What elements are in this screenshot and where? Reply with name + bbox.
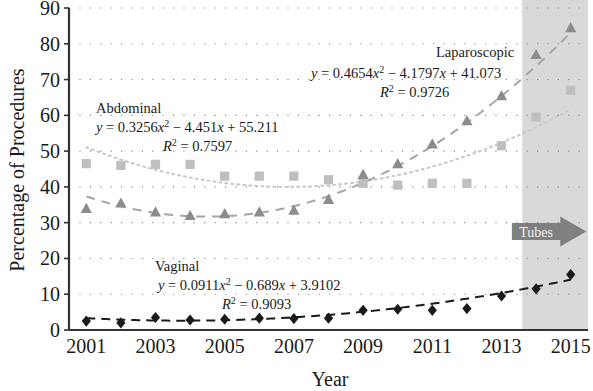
data-point-marker bbox=[532, 113, 541, 122]
laparoscopic-series-label: Laparoscopic bbox=[436, 44, 514, 60]
data-point-marker bbox=[462, 179, 471, 188]
data-point-marker bbox=[428, 305, 437, 316]
vaginal-eq-tail: + 3.9102 bbox=[285, 277, 340, 293]
chart-canvas: 9080706050403020100 20012003200520072009… bbox=[0, 0, 593, 391]
data-point-marker bbox=[427, 138, 438, 148]
data-point-marker bbox=[497, 141, 506, 150]
data-point-marker bbox=[359, 179, 368, 188]
data-point-marker bbox=[289, 313, 298, 324]
data-point-marker bbox=[82, 159, 91, 168]
vaginal-r-squared: R2 = 0.9093 bbox=[221, 295, 291, 312]
vaginal-eq-mid: − 0.689 bbox=[231, 277, 279, 293]
laparoscopic-r-squared: R2 = 0.9726 bbox=[379, 83, 449, 100]
vaginal-series-label: Vaginal bbox=[155, 258, 199, 274]
data-point-marker bbox=[115, 197, 126, 207]
data-point-marker bbox=[462, 303, 471, 314]
laparoscopic-r: R bbox=[379, 84, 389, 100]
laparoscopic-eq-assign: = 0.4654 bbox=[317, 65, 373, 81]
y-axis-title: Percentage of Procedures bbox=[6, 68, 29, 271]
y-tick-label: 50 bbox=[40, 140, 60, 162]
abdominal-r-squared: R2 = 0.7597 bbox=[162, 137, 232, 154]
data-point-marker bbox=[255, 313, 264, 324]
abdominal-r-val: = 0.7597 bbox=[177, 138, 232, 154]
vaginal-equation: y = 0.0911x2 − 0.689x + 3.9102 bbox=[156, 276, 340, 293]
x-tick-label: 2007 bbox=[274, 335, 314, 357]
data-point-marker bbox=[289, 172, 298, 181]
abdominal-eq-tail: + 55.211 bbox=[224, 119, 279, 135]
x-axis-tick-labels: 20012003200520072009201120132015 bbox=[66, 335, 590, 357]
data-point-marker bbox=[566, 86, 575, 95]
chart-figure: 9080706050403020100 20012003200520072009… bbox=[0, 0, 593, 391]
x-tick-label: 2013 bbox=[482, 335, 522, 357]
x-tick-label: 2001 bbox=[66, 335, 106, 357]
abdominal-equation: y = 0.3256x2 − 4.451x + 55.211 bbox=[94, 118, 278, 135]
laparoscopic-equation: y = 0.4654x2 − 4.1797x + 41.073 bbox=[309, 64, 501, 81]
x-tick-label: 2011 bbox=[413, 335, 452, 357]
data-point-marker bbox=[428, 179, 437, 188]
vaginal-r: R bbox=[221, 296, 231, 312]
abdominal-eq-mid: − 4.451 bbox=[169, 119, 217, 135]
y-tick-label: 40 bbox=[40, 176, 60, 198]
abdominal-r: R bbox=[162, 138, 172, 154]
y-tick-label: 30 bbox=[40, 212, 60, 234]
data-point-marker bbox=[82, 315, 91, 326]
data-point-marker bbox=[393, 181, 402, 190]
laparoscopic-r-val: = 0.9726 bbox=[394, 84, 449, 100]
y-tick-label: 10 bbox=[40, 283, 60, 305]
data-point-marker bbox=[393, 304, 402, 315]
vaginal-annotation: Vaginal y = 0.0911x2 − 0.689x + 3.9102 R… bbox=[155, 258, 340, 312]
x-tick-label: 2005 bbox=[205, 335, 245, 357]
data-point-marker bbox=[220, 172, 229, 181]
data-point-marker bbox=[324, 175, 333, 184]
y-tick-label: 20 bbox=[40, 247, 60, 269]
data-point-marker bbox=[255, 172, 264, 181]
data-point-marker bbox=[81, 203, 92, 213]
data-point-marker bbox=[220, 314, 229, 325]
y-tick-label: 0 bbox=[50, 319, 60, 341]
data-point-marker bbox=[185, 210, 196, 220]
vaginal-eq-assign: = 0.0911 bbox=[164, 277, 219, 293]
data-point-marker bbox=[151, 160, 160, 169]
x-tick-label: 2009 bbox=[343, 335, 383, 357]
data-point-marker bbox=[186, 160, 195, 169]
abdominal-eq-assign: = 0.3256 bbox=[102, 119, 157, 135]
laparoscopic-annotation: Laparoscopic y = 0.4654x2 − 4.1797x + 41… bbox=[309, 44, 514, 100]
x-axis-title: Year bbox=[312, 368, 349, 390]
abdominal-annotation: Abdominal y = 0.3256x2 − 4.451x + 55.211… bbox=[94, 100, 278, 154]
data-point-marker bbox=[358, 169, 369, 179]
vaginal-r-val: = 0.9093 bbox=[236, 296, 291, 312]
tubes-arrow-label: Tubes bbox=[519, 225, 553, 240]
y-tick-label: 90 bbox=[40, 0, 60, 19]
data-point-marker bbox=[219, 208, 230, 218]
data-point-marker bbox=[116, 161, 125, 170]
x-tick-label: 2003 bbox=[136, 335, 176, 357]
data-point-marker bbox=[186, 314, 195, 325]
x-tick-label: 2015 bbox=[551, 335, 591, 357]
laparoscopic-eq-tail: + 41.073 bbox=[446, 65, 501, 81]
y-tick-label: 70 bbox=[40, 69, 60, 91]
laparoscopic-eq-mid: − 4.1797 bbox=[384, 65, 439, 81]
y-axis-tick-labels: 9080706050403020100 bbox=[40, 0, 60, 341]
data-point-marker bbox=[359, 305, 368, 316]
abdominal-series-label: Abdominal bbox=[96, 100, 161, 116]
data-point-marker bbox=[323, 194, 334, 204]
y-tick-label: 80 bbox=[40, 33, 60, 55]
y-tick-label: 60 bbox=[40, 104, 60, 126]
